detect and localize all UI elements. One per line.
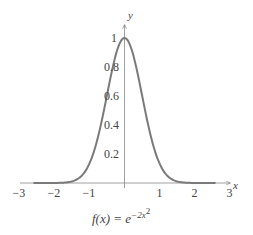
x-tick-label: 2 [192, 187, 198, 199]
formula-base: f(x) = e [92, 211, 131, 226]
y-tick-label: 0.8 [104, 61, 119, 73]
y-tick-label: 0.6 [104, 90, 119, 102]
x-tick-label: 1 [157, 187, 163, 199]
y-tick-label: 0.4 [104, 119, 119, 131]
y-axis-label: y [128, 10, 133, 21]
x-tick-label: −2 [48, 187, 61, 199]
y-tick-label: 0.2 [104, 148, 119, 160]
y-tick-label: 1 [111, 32, 117, 44]
formula-caption: f(x) = e−2x2 [92, 206, 150, 227]
x-tick-label: 3 [227, 187, 233, 199]
chart-canvas [0, 0, 253, 235]
x-tick-label: −1 [83, 187, 96, 199]
formula-exponent: −2x [131, 210, 146, 220]
formula-exponent-power: 2 [146, 206, 151, 216]
x-tick-label: −3 [13, 187, 26, 199]
x-axis-label: x [233, 180, 238, 191]
